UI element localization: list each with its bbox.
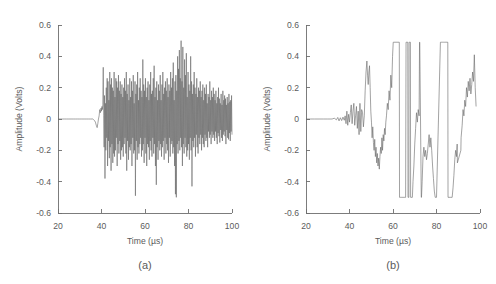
y-tick-label: -0.4 <box>36 177 51 187</box>
y-tick-label: 0.4 <box>39 51 51 61</box>
panel-caption-a: (a) <box>138 259 151 271</box>
y-tick-label: -0.6 <box>36 208 51 218</box>
x-tick-label: 20 <box>53 221 63 231</box>
y-tick-label: 0 <box>46 114 51 124</box>
x-axis-title-a: Time (µs) <box>127 236 163 246</box>
y-tick-label: -0.2 <box>284 145 299 155</box>
y-tick-label: -0.4 <box>284 177 299 187</box>
chart-panel-a: 0.60.40.20-0.2-0.4-0.620406080100 Time (… <box>0 0 248 284</box>
y-tick-label: 0.4 <box>287 51 299 61</box>
y-axis-title-a: Amplitude (Volts) <box>14 86 24 151</box>
y-tick-label: 0.2 <box>287 83 299 93</box>
x-tick-label: 60 <box>140 221 150 231</box>
y-tick-label: 0 <box>294 114 299 124</box>
chart-svg-b: 0.60.40.20-0.2-0.4-0.620406080100 Time (… <box>248 0 496 284</box>
x-tick-label: 20 <box>301 221 311 231</box>
x-tick-label: 60 <box>388 221 398 231</box>
y-tick-label: -0.6 <box>284 208 299 218</box>
y-tick-label: 0.6 <box>39 20 51 30</box>
x-axis-title-b: Time (µs) <box>375 236 411 246</box>
y-axis-title-b: Amplitude (Volts) <box>262 86 272 151</box>
x-tick-label: 80 <box>432 221 442 231</box>
waveform-trace-a <box>58 41 232 198</box>
chart-svg-a: 0.60.40.20-0.2-0.4-0.620406080100 Time (… <box>0 0 248 284</box>
y-tick-label: -0.2 <box>36 145 51 155</box>
x-tick-label: 100 <box>473 221 488 231</box>
chart-panel-b: 0.60.40.20-0.2-0.4-0.620406080100 Time (… <box>248 0 496 284</box>
x-tick-label: 40 <box>97 221 107 231</box>
y-tick-label: 0.6 <box>287 20 299 30</box>
x-tick-label: 80 <box>184 221 194 231</box>
x-tick-label: 100 <box>225 221 240 231</box>
panel-caption-b: (b) <box>386 259 399 271</box>
y-tick-label: 0.2 <box>39 83 51 93</box>
x-tick-label: 40 <box>345 221 355 231</box>
waveform-trace-b <box>306 42 476 197</box>
figure-container: 0.60.40.20-0.2-0.4-0.620406080100 Time (… <box>0 0 496 284</box>
